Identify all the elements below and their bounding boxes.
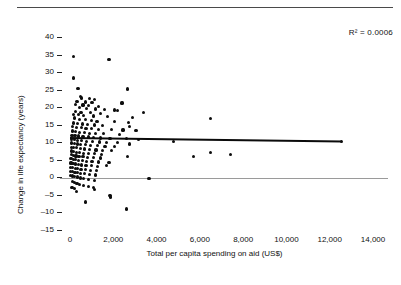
scatter-point	[113, 145, 116, 148]
scatter-point	[80, 126, 83, 129]
scatter-point	[87, 152, 90, 155]
scatter-point	[84, 164, 87, 167]
scatter-point	[107, 161, 110, 164]
y-tick-label: 15	[28, 121, 54, 129]
y-tick-label: 0	[28, 173, 54, 181]
scatter-point	[142, 111, 145, 114]
x-tick-label: 0	[50, 236, 90, 244]
scatter-point	[72, 113, 75, 116]
scatter-point	[94, 107, 97, 110]
scatter-point	[93, 123, 96, 126]
x-tick-label: 8,000	[223, 236, 263, 244]
scatter-point	[103, 145, 106, 148]
x-tick-label: 4,000	[137, 236, 177, 244]
x-tick-label: 2,000	[93, 236, 133, 244]
scatter-point	[93, 179, 96, 182]
scatter-point	[99, 156, 102, 159]
scatter-point	[80, 139, 83, 142]
x-tick-label: 10,000	[266, 236, 306, 244]
y-tick-mark	[57, 90, 62, 91]
y-tick-mark	[57, 177, 62, 178]
scatter-point	[78, 151, 81, 154]
scatter-point	[84, 143, 87, 146]
scatter-point	[88, 148, 91, 151]
scatter-point	[88, 97, 91, 100]
scatter-point	[118, 133, 121, 136]
scatter-point	[99, 112, 102, 115]
y-tick-mark	[57, 142, 62, 143]
scatter-point	[80, 163, 83, 166]
scatter-point	[84, 127, 87, 130]
scatter-point	[75, 146, 78, 149]
scatter-point	[82, 114, 85, 117]
y-tick-label: 40	[28, 33, 54, 41]
scatter-point	[134, 129, 137, 132]
scatter-point	[86, 123, 89, 126]
scatter-point	[77, 159, 80, 162]
y-tick-mark	[57, 125, 62, 126]
scatter-point	[78, 131, 81, 134]
y-tick-label: 35	[28, 51, 54, 59]
scatter-point	[74, 103, 77, 106]
x-tick-label: 12,000	[310, 236, 350, 244]
scatter-point	[110, 128, 113, 131]
scatter-point	[85, 160, 88, 163]
scatter-point	[93, 152, 96, 155]
y-tick-mark	[57, 37, 62, 38]
scatter-point	[105, 164, 108, 167]
scatter-point	[103, 108, 106, 111]
scatter-point	[77, 87, 80, 90]
scatter-point	[92, 114, 95, 117]
scatter-point	[90, 101, 93, 104]
scatter-point	[90, 164, 93, 167]
scatter-point	[101, 124, 104, 127]
scatter-point	[116, 141, 119, 144]
scatter-point	[72, 76, 75, 79]
scatter-point	[86, 156, 89, 159]
scatter-point	[87, 178, 90, 181]
scatter-point	[128, 142, 131, 145]
scatter-point	[88, 173, 91, 176]
scatter-point	[116, 109, 119, 112]
scatter-point	[80, 96, 83, 99]
scatter-point	[127, 121, 130, 124]
y-tick-label: 20	[28, 103, 54, 111]
scatter-point	[126, 155, 129, 158]
scatter-point	[79, 172, 82, 175]
scatter-point	[82, 177, 85, 180]
y-tick-mark	[57, 195, 62, 196]
scatter-point	[77, 113, 80, 116]
scatter-point	[76, 122, 79, 125]
scatter-point	[84, 200, 87, 203]
scatter-point	[85, 107, 88, 110]
scatter-point	[94, 173, 97, 176]
scatter-point	[72, 55, 75, 58]
scatter-point	[110, 149, 113, 152]
y-tick-label: 10	[28, 138, 54, 146]
scatter-point	[192, 155, 195, 158]
scatter-point	[89, 169, 92, 172]
y-tick-label: 25	[28, 86, 54, 94]
scatter-point	[102, 132, 105, 135]
scatter-point	[96, 144, 99, 147]
y-tick-label: 30	[28, 68, 54, 76]
scatter-point	[82, 184, 85, 187]
y-tick-mark	[57, 107, 62, 108]
scatter-point	[79, 168, 82, 171]
scatter-point	[73, 116, 76, 119]
plot-area: –15–10–5051015202530354002,0004,0006,000…	[0, 0, 401, 285]
y-tick-label: –10	[28, 208, 54, 216]
scatter-point	[113, 120, 116, 123]
scatter-point	[93, 188, 96, 191]
scatter-point	[97, 128, 100, 131]
scatter-point	[83, 147, 86, 150]
scatter-point	[106, 115, 109, 118]
scatter-point	[87, 185, 90, 188]
scatter-point	[147, 177, 150, 180]
scatter-point	[84, 118, 87, 121]
scatter-point	[128, 125, 131, 128]
y-tick-label: –15	[28, 226, 54, 234]
scatter-point	[79, 147, 82, 150]
scatter-point	[105, 141, 108, 144]
scatter-point	[75, 126, 78, 129]
